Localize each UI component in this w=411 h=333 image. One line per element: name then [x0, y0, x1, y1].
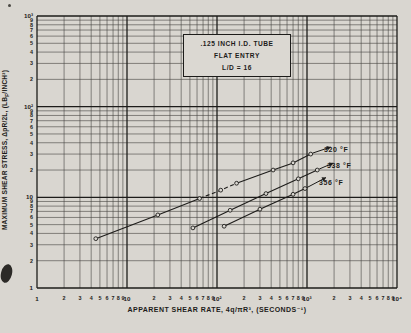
- svg-text:2: 2: [30, 258, 33, 264]
- svg-text:2: 2: [243, 295, 246, 301]
- svg-text:6: 6: [106, 295, 109, 301]
- svg-text:8: 8: [297, 295, 300, 301]
- svg-text:3: 3: [30, 60, 33, 66]
- svg-text:3: 3: [78, 295, 81, 301]
- svg-text:5: 5: [368, 295, 371, 301]
- svg-text:4: 4: [180, 295, 183, 301]
- svg-text:4: 4: [30, 230, 33, 236]
- shear-stress-log-log-figure: 11010²10³10⁴2345678923456789234567892345…: [0, 0, 411, 333]
- svg-text:4: 4: [30, 49, 33, 55]
- svg-text:6: 6: [286, 295, 289, 301]
- svg-text:7: 7: [202, 295, 205, 301]
- svg-text:4: 4: [360, 295, 363, 301]
- series-label-320f: 320 °F: [324, 146, 348, 153]
- svg-text:2: 2: [63, 295, 66, 301]
- annotation-line-entry: FLAT ENTRY: [214, 50, 260, 61]
- y-title-post: /INCH²): [1, 70, 8, 94]
- svg-text:6: 6: [196, 295, 199, 301]
- svg-text:8: 8: [207, 295, 210, 301]
- svg-text:5: 5: [188, 295, 191, 301]
- svg-text:3: 3: [258, 295, 261, 301]
- svg-text:7: 7: [30, 118, 33, 124]
- svg-text:9: 9: [211, 295, 214, 301]
- svg-text:2: 2: [30, 76, 33, 82]
- svg-text:6: 6: [30, 124, 33, 130]
- svg-text:7: 7: [112, 295, 115, 301]
- condition-annotation-box: .125 INCH I.D. TUBE FLAT ENTRY L/D = 16: [183, 34, 291, 77]
- svg-text:4: 4: [90, 295, 93, 301]
- svg-text:5: 5: [30, 222, 33, 228]
- x-axis-title: APPARENT SHEAR RATE, 4q/πR³, (SECONDS⁻¹): [37, 306, 397, 314]
- svg-text:6: 6: [30, 214, 33, 220]
- svg-text:1: 1: [30, 284, 34, 291]
- svg-text:2: 2: [30, 167, 33, 173]
- annotation-line-ld: L/D = 16: [222, 62, 252, 73]
- svg-text:9: 9: [30, 108, 33, 114]
- series-label-356f: 356 °F: [319, 179, 343, 186]
- svg-text:6: 6: [376, 295, 379, 301]
- svg-text:9: 9: [121, 295, 124, 301]
- svg-text:3: 3: [30, 242, 33, 248]
- svg-text:10: 10: [124, 295, 131, 302]
- svg-text:3: 3: [30, 151, 33, 157]
- svg-text:7: 7: [30, 27, 33, 33]
- y-title-pre: MAXIMUM SHEAR STRESS, ΔpR/2L, (LB: [1, 97, 8, 230]
- svg-text:7: 7: [30, 208, 33, 214]
- series-label-338f: 338 °F: [327, 162, 351, 169]
- paper-speck: [8, 4, 11, 7]
- svg-text:8: 8: [387, 295, 390, 301]
- svg-text:7: 7: [382, 295, 385, 301]
- svg-text:5: 5: [30, 40, 33, 46]
- svg-text:9: 9: [30, 198, 33, 204]
- x-axis-tick-labels: 11010²10³10⁴2345678923456789234567892345…: [35, 295, 402, 302]
- series-curve-338f: [191, 162, 333, 229]
- svg-text:5: 5: [30, 131, 33, 137]
- svg-text:9: 9: [30, 17, 33, 23]
- svg-text:6: 6: [30, 33, 33, 39]
- y-axis-tick-labels: 11010²10³234567892345678923456789: [24, 12, 34, 291]
- svg-text:8: 8: [117, 295, 120, 301]
- svg-text:9: 9: [391, 295, 394, 301]
- svg-text:4: 4: [270, 295, 273, 301]
- y-title-subscript: F: [5, 94, 10, 97]
- svg-text:3: 3: [348, 295, 351, 301]
- svg-text:1: 1: [35, 295, 39, 302]
- svg-text:2: 2: [153, 295, 156, 301]
- svg-text:4: 4: [30, 140, 33, 146]
- svg-text:7: 7: [292, 295, 295, 301]
- svg-text:9: 9: [301, 295, 304, 301]
- svg-text:5: 5: [98, 295, 101, 301]
- svg-text:3: 3: [168, 295, 171, 301]
- svg-text:5: 5: [278, 295, 281, 301]
- annotation-line-tube: .125 INCH I.D. TUBE: [200, 38, 273, 49]
- svg-text:2: 2: [333, 295, 336, 301]
- y-axis-title: MAXIMUM SHEAR STRESS, ΔpR/2L, (LBF/INCH²…: [1, 14, 15, 286]
